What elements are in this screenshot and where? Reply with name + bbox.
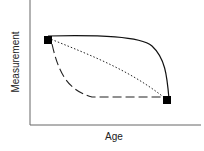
- end-marker: [163, 96, 171, 104]
- dashed-curve: [52, 44, 164, 97]
- y-axis-label: Measurement: [10, 31, 21, 92]
- chart-plot: [0, 0, 204, 151]
- dotted-curve: [48, 38, 166, 99]
- solid-curve: [48, 36, 169, 99]
- x-axis-label: Age: [0, 131, 204, 142]
- start-marker: [44, 36, 52, 44]
